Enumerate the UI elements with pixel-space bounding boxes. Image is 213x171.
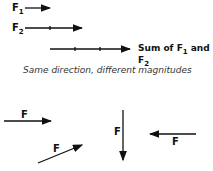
force-label-diagonal: F (53, 144, 60, 154)
force-diagram (0, 0, 213, 171)
force-label-down: F (114, 127, 121, 137)
force-label-left: F (172, 137, 179, 147)
caption: Same direction, different magnitudes (23, 65, 192, 75)
f1-label: F1 (12, 3, 24, 16)
diagonal-arrow (38, 145, 82, 163)
f2-label: F2 (12, 23, 24, 36)
force-label-right: F (21, 110, 28, 120)
